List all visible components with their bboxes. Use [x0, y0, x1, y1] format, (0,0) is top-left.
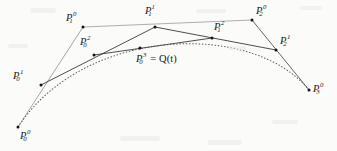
bezier-de-casteljau-figure: P00 P10 P20 P30 P01 P11 P21 P02 P12 P03=… — [0, 0, 337, 151]
segment-P0_0-P1_0 — [18, 27, 83, 127]
dot-P3_0 — [308, 89, 311, 92]
dot-P0_0 — [17, 126, 20, 129]
point-label-P2_1: P21 — [280, 36, 293, 47]
dot-P1_2 — [211, 37, 214, 40]
point-label-P1_2: P12 — [214, 22, 227, 33]
equals-qt-text: = Q(t) — [150, 53, 177, 64]
control-polygon-level0 — [18, 20, 309, 127]
point-label-P0_0: P00 — [20, 131, 33, 142]
dot-P2_0 — [251, 19, 254, 22]
segment-P2_0-P3_0 — [252, 20, 309, 90]
figure-canvas — [0, 0, 337, 151]
dot-P0_1 — [40, 84, 43, 87]
dot-P1_1 — [154, 26, 157, 29]
point-label-P3_0: P30 — [313, 84, 326, 95]
point-label-P0_2: P02 — [80, 37, 93, 48]
control-point-dots — [17, 19, 311, 129]
point-label-P1_1: P11 — [145, 6, 158, 17]
point-label-P2_0: P20 — [256, 6, 269, 17]
point-label-P1_0: P10 — [66, 13, 79, 24]
dot-P0_3 — [138, 46, 141, 49]
point-label-P0_3-equals-Qt: P03= Q(t) — [136, 54, 177, 65]
dot-P2_1 — [275, 49, 278, 52]
dot-P0_2 — [93, 54, 96, 57]
point-label-P0_1: P01 — [13, 71, 26, 82]
dot-P1_0 — [82, 26, 85, 29]
